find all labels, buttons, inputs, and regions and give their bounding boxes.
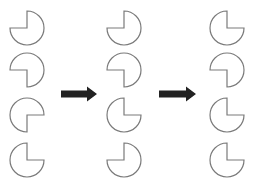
right-arrow-icon-1 [61, 87, 97, 102]
pacman-shape-col2-row1 [107, 11, 141, 45]
pacman-shape-col2-row3 [107, 98, 141, 132]
pacman-shape-col2-row2 [107, 53, 141, 87]
pacman-shape-col3-row3 [210, 98, 244, 132]
right-arrow-icon-2 [159, 87, 196, 102]
pacman-shape-col1-row3 [10, 98, 44, 132]
pacman-shape-col3-row2 [210, 53, 244, 87]
pacman-shape-col1-row4 [10, 143, 44, 177]
pacman-shape-col1-row2 [10, 53, 44, 87]
pacman-shape-col2-row4 [107, 143, 141, 177]
pacman-sequence-diagram [0, 0, 256, 188]
pacman-shape-col3-row4 [210, 143, 244, 177]
pacman-shape-col3-row1 [210, 11, 244, 45]
pacman-shape-col1-row1 [10, 11, 44, 45]
